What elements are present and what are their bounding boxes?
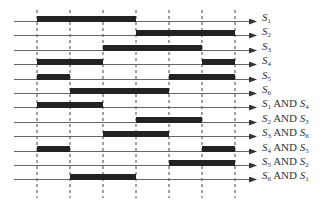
signal-index-2: 2 [305,161,309,169]
high-pulse [37,102,103,108]
high-pulse [70,88,169,94]
signal-label-s3-and-s6: S3 AND S6 [262,126,309,142]
signal-index: 2 [268,31,272,39]
signal-index-2: 1 [305,175,309,183]
high-pulse [136,117,202,123]
and-operator: AND [271,112,300,124]
high-pulse [202,59,235,65]
and-operator: AND [271,169,300,181]
signal-row [14,88,256,94]
signal-row [14,160,256,166]
high-pulse [37,16,136,22]
high-pulse [169,74,235,80]
signal-label-s4: S4 [262,54,271,70]
high-pulse [136,30,235,36]
high-pulse [202,146,235,152]
high-pulse [103,45,202,51]
high-pulse [70,174,136,180]
signal-index: 3 [268,46,272,54]
signal-row [14,30,256,36]
and-operator: AND [271,97,300,109]
high-pulse [37,74,70,80]
high-pulse [37,146,70,152]
signal-index-2: 4 [305,103,309,111]
signal-index: 5 [268,75,272,83]
and-operator: AND [271,141,300,153]
signal-row [14,174,256,180]
signal-label-s2: S2 [262,25,271,41]
signal-row [14,45,256,51]
signal-index: 1 [268,17,272,25]
signal-index-2: 3 [305,118,309,126]
high-pulse [37,59,103,65]
signal-row [14,16,256,22]
signal-index-2: 5 [305,147,309,155]
signal-row [14,74,256,80]
signal-label-s1-and-s4: S1 AND S4 [262,97,309,113]
signal-row [14,117,256,123]
signal-index: 4 [268,60,272,68]
signal-row [14,131,256,137]
high-pulse [103,131,169,137]
signal-rows [14,16,256,180]
high-pulse [169,160,235,166]
and-operator: AND [271,155,300,167]
signal-index-2: 6 [305,132,309,140]
signal-row [14,146,256,152]
signal-row [14,59,256,65]
signal-label-s6-and-s1: S6 AND S1 [262,169,309,185]
signal-index: 6 [268,89,272,97]
and-operator: AND [271,126,300,138]
signal-row [14,102,256,108]
